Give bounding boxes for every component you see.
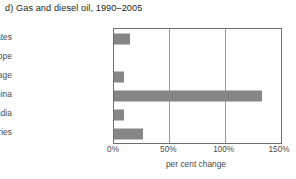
xtick-label-0: 0% <box>107 145 119 154</box>
gridline-50 <box>169 29 170 143</box>
figure-gas-and-diesel-oil: d) Gas and diesel oil, 1990–2005 United … <box>0 0 296 179</box>
category-label-europe: Europe <box>0 51 12 61</box>
x-axis-title: per cent change <box>166 159 226 169</box>
bar-india <box>114 109 124 120</box>
category-label-india: India <box>0 108 12 118</box>
category-label-global-average: Global average <box>0 70 12 80</box>
gridline-100 <box>225 29 226 143</box>
xtick-label-50: 50% <box>160 145 176 154</box>
xtick-label-100: 100% <box>213 145 234 154</box>
category-label-united-states: United States <box>0 32 12 42</box>
plot-inner <box>114 29 281 143</box>
chart-title: d) Gas and diesel oil, 1990–2005 <box>5 3 142 13</box>
bar-united-states <box>114 33 130 44</box>
bar-china <box>114 90 262 101</box>
category-label-china: China <box>0 89 12 99</box>
category-label-low-income-countries: Low-income countries <box>0 127 12 137</box>
xtick-label-150: 150% <box>269 145 290 154</box>
plot-area <box>113 28 282 144</box>
bar-global-average <box>114 71 124 82</box>
bar-low-income-countries <box>114 128 143 139</box>
